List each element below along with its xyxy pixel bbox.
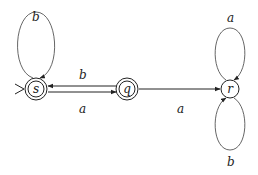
transition-label: a	[177, 102, 184, 116]
transition-label: b	[227, 155, 235, 169]
transition-label: a	[227, 11, 234, 25]
transition-label: b	[32, 10, 40, 24]
state-s: s	[25, 78, 47, 100]
state-diagram: b b a a a b s q r	[0, 0, 258, 175]
transition-q-s-b: b	[48, 68, 116, 86]
state-r: r	[221, 80, 239, 98]
initial-state-arrow-icon	[15, 84, 24, 94]
transition-q-r-a: a	[139, 89, 220, 116]
transition-r-r-a: a	[215, 11, 245, 80]
transition-label: a	[79, 102, 86, 116]
transition-s-s-b: b	[18, 10, 55, 78]
transition-r-r-b: b	[215, 98, 245, 169]
transition-s-q-a: a	[48, 92, 116, 116]
state-label: q	[123, 82, 131, 96]
state-q: q	[116, 78, 138, 100]
state-label: s	[33, 82, 39, 96]
transition-label: b	[79, 68, 87, 82]
